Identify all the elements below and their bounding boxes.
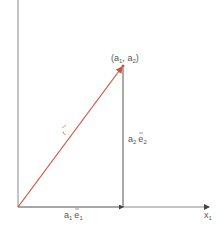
vector-label: r — [60, 129, 67, 136]
vector-label-arrow-icon — [62, 125, 66, 128]
y-component-label: a2e2 — [128, 133, 147, 145]
point-label: (a1, a2) — [111, 53, 139, 64]
x-axis-label: x1 — [204, 210, 213, 221]
svg-text:a1e1: a1e1 — [64, 210, 83, 221]
position-vector — [18, 67, 122, 207]
vector-diagram: (a1, a2) r a2e2 a1e1 x1 — [0, 0, 222, 229]
point-marker — [122, 65, 125, 68]
svg-text:a2e2: a2e2 — [128, 134, 147, 145]
x-component-label: a1e1 — [64, 209, 83, 221]
